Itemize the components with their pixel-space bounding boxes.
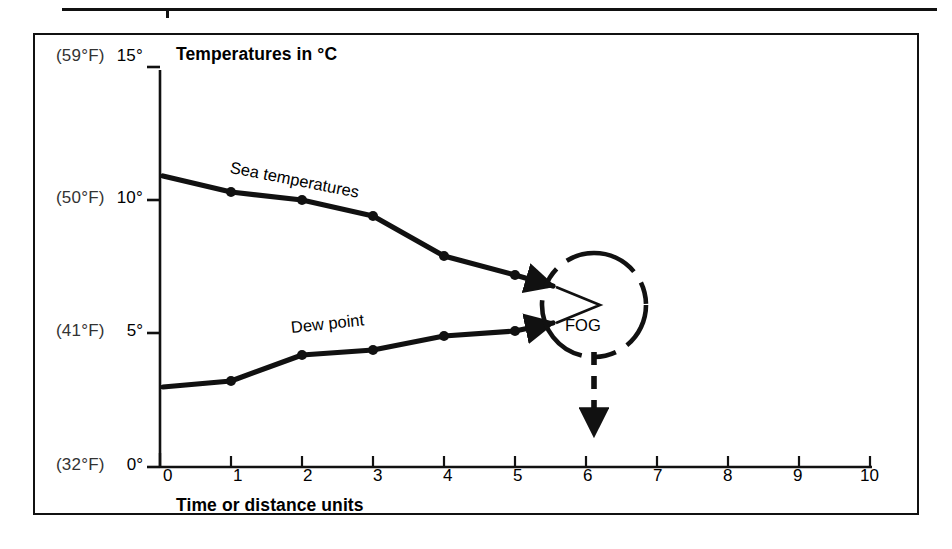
chart-plot-area (0, 0, 952, 549)
series-line-dew-point (163, 323, 553, 387)
series-point-dew (368, 345, 378, 355)
series-point-sea (226, 187, 236, 197)
series-point-dew (439, 331, 449, 341)
fog-convergence-chevron (556, 287, 600, 323)
series-point-dew (510, 326, 520, 336)
series-point-sea (510, 270, 520, 280)
fog-dashed-circle (542, 253, 646, 357)
series-point-sea (439, 251, 449, 261)
series-point-dew (226, 376, 236, 386)
series-line-sea-temperatures (163, 176, 553, 286)
series-point-dew (297, 350, 307, 360)
series-point-sea (297, 195, 307, 205)
series-point-sea (368, 211, 378, 221)
